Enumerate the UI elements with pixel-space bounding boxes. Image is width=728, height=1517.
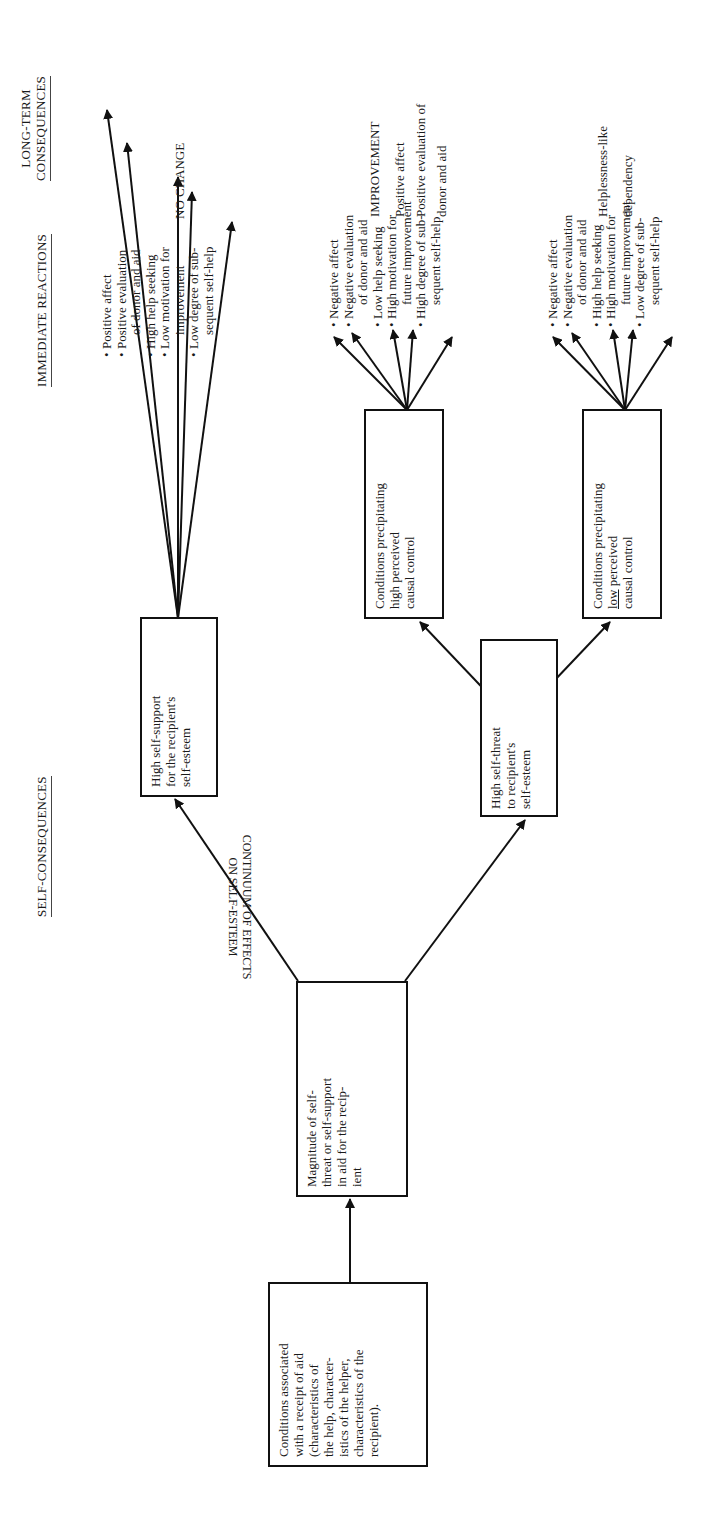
box-high-self-support: High self-support for the recipient's se… <box>140 617 218 797</box>
long-term-improvement: IMPROVEMENT Positive affect Positive eva… <box>367 17 449 217</box>
reaction-item: Low degree of sub-sequent self-help <box>633 127 662 327</box>
header-self-consequences: SELF-CONSEQUENCES <box>34 776 52 917</box>
long-term-no-change: NO CHANGE <box>172 143 187 219</box>
reaction-item: Negative affect <box>546 127 561 327</box>
box-conditions-of-aid: Conditions associated with a receipt of … <box>268 1282 428 1467</box>
reaction-item: Negative affect <box>327 127 342 327</box>
reaction-item: High help seeking <box>144 97 159 357</box>
reaction-item: Positive evaluationof donor and aid <box>115 97 144 357</box>
reaction-item: Negative evaluationof donor and aid <box>561 127 590 327</box>
box-high-self-threat: High self-threat to recipient's self-est… <box>480 639 558 817</box>
reaction-item: Low degree of sub-sequent self-help <box>187 97 216 357</box>
box-magnitude: Magnitude of self- threat or self-suppor… <box>296 981 408 1197</box>
reaction-item: Low motivation forimprovement <box>158 97 187 357</box>
header-long-term-consequences: LONG-TERM CONSEQUENCES <box>18 76 51 181</box>
diagram-canvas: SELF-CONSEQUENCES IMMEDIATE REACTIONS LO… <box>0 0 728 1517</box>
reactions-self-support: Positive affect Positive evaluationof do… <box>100 97 216 357</box>
box-low-causal-control: Conditions precipitating low perceived c… <box>582 409 662 619</box>
header-immediate-reactions: IMMEDIATE REACTIONS <box>34 234 52 387</box>
continuum-label: CONTINUUM OF EFFECTS ON SELF-ESTEEM <box>226 807 254 1007</box>
box-high-causal-control: Conditions precipitating high perceived … <box>364 409 444 619</box>
reaction-item: Positive affect <box>100 97 115 357</box>
long-term-helplessness: Helplessness-like dependency <box>595 17 635 217</box>
arrow-magnitude-to-threat <box>405 820 525 981</box>
